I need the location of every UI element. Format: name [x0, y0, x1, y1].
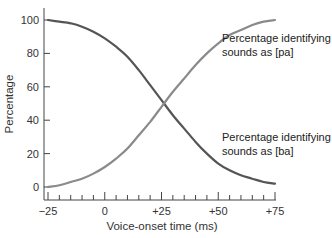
- x-axis-title: Voice-onset time (ms): [106, 220, 217, 232]
- y-tick-label: 20: [27, 148, 39, 160]
- y-axis-title: Percentage: [3, 75, 15, 134]
- x-tick-label: +75: [266, 205, 285, 217]
- y-tick-label: 0: [33, 181, 39, 193]
- y-ticks: 020406080100: [21, 14, 50, 193]
- pa-annotation: Percentage identifying sounds as [pa]: [222, 32, 331, 58]
- ba-curve: [48, 20, 275, 184]
- y-tick-label: 40: [27, 114, 39, 126]
- x-tick-label: −25: [39, 205, 58, 217]
- x-tick-label: +50: [209, 205, 228, 217]
- svg-text:sounds as [pa]: sounds as [pa]: [222, 46, 294, 58]
- y-tick-label: 80: [27, 47, 39, 59]
- x-ticks: −250+25+50+75: [39, 192, 285, 217]
- x-tick-label: +25: [152, 205, 171, 217]
- x-tick-label: 0: [102, 205, 108, 217]
- y-tick-label: 60: [27, 81, 39, 93]
- y-tick-label: 100: [21, 14, 39, 26]
- categorical-perception-chart: 020406080100 −250+25+50+75 Percentage Vo…: [0, 0, 332, 238]
- svg-text:sounds as [ba]: sounds as [ba]: [222, 145, 294, 157]
- y-axis: 020406080100: [21, 8, 50, 200]
- svg-text:Percentage identifying: Percentage identifying: [222, 32, 331, 44]
- ba-annotation: Percentage identifying sounds as [ba]: [222, 131, 331, 157]
- svg-text:Percentage identifying: Percentage identifying: [222, 131, 331, 143]
- x-axis: −250+25+50+75: [39, 192, 285, 217]
